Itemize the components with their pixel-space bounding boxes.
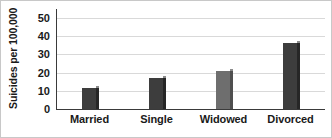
bar-series (57, 9, 325, 109)
y-axis-title: Suicides per 100,000 (7, 9, 19, 109)
plot-area (56, 9, 325, 110)
bar-chart-figure: Suicides per 100,000 01020304050 Married… (0, 0, 332, 138)
bar-slot (124, 9, 191, 109)
bar-side-shadow (297, 43, 300, 109)
bar-face (216, 71, 230, 109)
y-tick-label-0: 0 (44, 103, 50, 115)
y-axis-tick-labels: 01020304050 (21, 1, 54, 121)
bar-widowed (216, 71, 233, 109)
y-axis-title-container: Suicides per 100,000 (1, 1, 21, 121)
bar-face (149, 78, 163, 109)
bar-top-highlight (96, 86, 99, 88)
y-tick-label-10: 10 (38, 85, 50, 97)
y-tick-label-40: 40 (38, 30, 50, 42)
y-tick-label-50: 50 (38, 12, 50, 24)
bar-side-shadow (96, 88, 99, 109)
bar-side-shadow (163, 78, 166, 109)
x-tick-label-single: Single (123, 113, 190, 133)
bar-side-shadow (230, 71, 233, 109)
bar-single (149, 78, 166, 109)
y-tick-label-30: 30 (38, 48, 50, 60)
bar-face (82, 88, 96, 109)
bar-top-highlight (163, 76, 166, 78)
x-tick-label-divorced: Divorced (257, 113, 324, 133)
bar-top-highlight (297, 41, 300, 43)
x-tick-label-widowed: Widowed (190, 113, 257, 133)
x-axis-tick-labels: MarriedSingleWidowedDivorced (56, 113, 324, 133)
y-tick-label-20: 20 (38, 67, 50, 79)
bar-divorced (283, 43, 300, 109)
bar-slot (57, 9, 124, 109)
bar-face (283, 43, 297, 109)
bar-top-highlight (230, 69, 233, 71)
bar-slot (191, 9, 258, 109)
bar-slot (258, 9, 325, 109)
x-tick-label-married: Married (56, 113, 123, 133)
bar-married (82, 88, 99, 109)
